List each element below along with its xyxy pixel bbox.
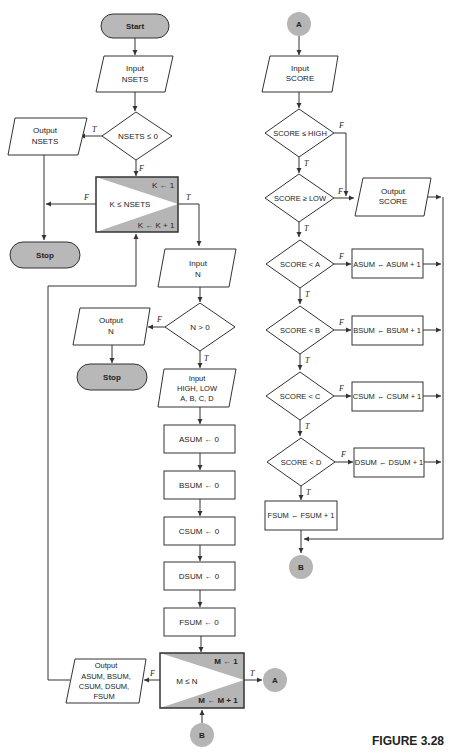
output-sums: Output ASUM, BSUM, CSUM, DSUM, FSUM <box>66 659 146 703</box>
svg-text:BSUM ← BSUM + 1: BSUM ← BSUM + 1 <box>353 326 421 335</box>
figure-caption: FIGURE 3.28 <box>372 734 444 748</box>
false-label: F <box>338 318 344 327</box>
svg-text:A: A <box>296 20 302 29</box>
stop-terminal-1: Stop <box>10 242 80 268</box>
svg-text:CSUM, DSUM,: CSUM, DSUM, <box>79 682 129 691</box>
svg-text:FSUM: FSUM <box>93 692 114 701</box>
svg-text:ASUM ← 0: ASUM ← 0 <box>179 435 220 444</box>
process-dsum-init: DSUM ← 0 <box>164 562 235 590</box>
svg-text:SCORE ≤ HIGH: SCORE ≤ HIGH <box>273 129 327 138</box>
decision-score-ge-low: SCORE ≥ LOW <box>265 174 334 222</box>
decision-score-lt-a: SCORE < A <box>266 240 334 288</box>
process-fsum-init: FSUM ← 0 <box>164 608 235 636</box>
process-bsum-init: BSUM ← 0 <box>164 471 235 499</box>
svg-text:N: N <box>195 270 201 279</box>
false-label: F <box>156 315 162 324</box>
decision-score-le-high: SCORE ≤ HIGH <box>265 109 334 157</box>
svg-text:B: B <box>298 563 304 572</box>
false-label: F <box>149 669 155 678</box>
true-label: T <box>306 488 311 497</box>
svg-text:Output: Output <box>95 661 118 670</box>
svg-text:BSUM ← 0: BSUM ← 0 <box>179 481 220 490</box>
false-label: F <box>83 193 89 202</box>
svg-text:N: N <box>108 327 114 336</box>
true-label: T <box>304 159 309 168</box>
svg-text:A, B, C, D: A, B, C, D <box>180 394 214 403</box>
flowchart-canvas: Start Input NSETS NSETS ≤ 0 T Output NSE… <box>0 0 453 756</box>
start-terminal: Start <box>101 14 169 38</box>
false-label: F <box>138 164 144 173</box>
svg-text:SCORE < D: SCORE < D <box>281 458 322 467</box>
connector-a-out: A <box>263 668 287 692</box>
svg-text:N > 0: N > 0 <box>190 323 210 332</box>
output-score: Output SCORE <box>355 178 431 216</box>
true-label: T <box>204 354 209 363</box>
input-n: Input N <box>158 249 236 287</box>
svg-text:NSETS: NSETS <box>122 75 149 84</box>
false-label: F <box>338 252 344 261</box>
svg-text:SCORE < C: SCORE < C <box>280 392 321 401</box>
process-asum-increment: ASUM ← ASUM + 1 <box>352 249 423 278</box>
svg-text:NSETS ≤ 0: NSETS ≤ 0 <box>118 132 159 141</box>
svg-text:SCORE ≥ LOW: SCORE ≥ LOW <box>274 194 327 203</box>
false-label: F <box>340 450 346 459</box>
svg-text:Stop: Stop <box>103 373 121 382</box>
output-nsets: Output NSETS <box>8 118 87 155</box>
svg-text:Input: Input <box>189 374 207 383</box>
decision-n-gt-zero: N > 0 <box>165 303 235 351</box>
svg-text:A: A <box>272 676 278 685</box>
svg-text:K ← K + 1: K ← K + 1 <box>138 221 175 230</box>
false-label: F <box>337 187 343 196</box>
svg-text:DSUM ← 0: DSUM ← 0 <box>179 572 220 581</box>
svg-text:SCORE: SCORE <box>379 197 407 206</box>
svg-text:ASUM ← ASUM + 1: ASUM ← ASUM + 1 <box>353 260 420 269</box>
loop-m: M ← 1 M ≤ N M ← M + 1 <box>160 653 244 708</box>
process-asum-init: ASUM ← 0 <box>164 425 235 453</box>
svg-text:K ≤ NSETS: K ≤ NSETS <box>110 200 151 209</box>
svg-text:M ← 1: M ← 1 <box>214 657 238 666</box>
connector-a-in: A <box>287 12 311 36</box>
svg-text:Start: Start <box>126 22 145 31</box>
svg-text:Output: Output <box>33 126 58 135</box>
connector-b-out: B <box>289 555 313 579</box>
process-bsum-increment: BSUM ← BSUM + 1 <box>352 316 423 345</box>
svg-text:CSUM ← 0: CSUM ← 0 <box>179 527 220 536</box>
svg-text:Output: Output <box>99 316 124 325</box>
true-label: T <box>304 224 309 233</box>
process-csum-init: CSUM ← 0 <box>164 517 235 545</box>
input-params: Input HIGH, LOW A, B, C, D <box>158 369 236 407</box>
false-label: F <box>338 121 344 130</box>
svg-text:FSUM ← 0: FSUM ← 0 <box>179 618 219 627</box>
svg-text:K ← 1: K ← 1 <box>152 181 175 190</box>
svg-text:Stop: Stop <box>36 251 54 260</box>
svg-text:SCORE: SCORE <box>286 74 314 83</box>
svg-text:SCORE < B: SCORE < B <box>280 326 320 335</box>
decision-score-lt-b: SCORE < B <box>266 306 334 354</box>
svg-text:M ≤ N: M ≤ N <box>176 677 198 686</box>
true-label: T <box>305 290 310 299</box>
process-csum-increment: CSUM ← CSUM + 1 <box>352 382 423 411</box>
svg-text:SCORE < A: SCORE < A <box>280 260 320 269</box>
output-n: Output N <box>73 308 150 345</box>
svg-text:Input: Input <box>189 259 208 268</box>
decision-score-lt-c: SCORE < C <box>266 372 334 420</box>
input-nsets: Input NSETS <box>96 56 173 92</box>
true-label: T <box>305 422 310 431</box>
decision-nsets-le-zero: NSETS ≤ 0 <box>102 112 172 160</box>
connector-b-in: B <box>190 723 214 747</box>
svg-text:M ← M + 1: M ← M + 1 <box>198 696 238 705</box>
svg-text:CSUM ← CSUM + 1: CSUM ← CSUM + 1 <box>353 392 422 401</box>
svg-text:B: B <box>199 731 205 740</box>
svg-text:NSETS: NSETS <box>32 137 59 146</box>
svg-text:Input: Input <box>291 64 310 73</box>
true-label: T <box>305 356 310 365</box>
true-label: T <box>250 669 255 678</box>
loop-k: K ← 1 K ≤ NSETS K ← K + 1 <box>96 177 178 232</box>
svg-text:DSUM ← DSUM + 1: DSUM ← DSUM + 1 <box>355 458 424 467</box>
svg-text:Input: Input <box>126 64 145 73</box>
input-score: Input SCORE <box>262 56 338 92</box>
svg-text:FSUM ← FSUM + 1: FSUM ← FSUM + 1 <box>268 511 335 520</box>
true-label: T <box>186 193 191 202</box>
process-dsum-increment: DSUM ← DSUM + 1 <box>354 448 424 477</box>
process-fsum-increment: FSUM ← FSUM + 1 <box>265 501 337 530</box>
